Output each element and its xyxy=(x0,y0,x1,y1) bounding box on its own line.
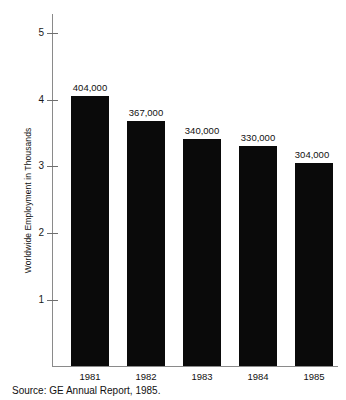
y-tick-mark-1 xyxy=(47,300,58,301)
plot-area: 5 4 3 2 1 Worldwide Employment in Thousa… xyxy=(0,0,346,400)
bar-1981 xyxy=(71,96,109,366)
bar-chart-figure: 5 4 3 2 1 Worldwide Employment in Thousa… xyxy=(0,0,346,400)
bar-value-label-1985: 304,000 xyxy=(277,150,346,160)
y-tick-mark-4 xyxy=(47,100,58,101)
bar-value-label-1982: 367,000 xyxy=(111,108,181,118)
x-category-label-1981: 1981 xyxy=(60,371,120,382)
y-tick-mark-2 xyxy=(47,233,58,234)
x-axis-baseline xyxy=(52,366,338,367)
x-category-label-1983: 1983 xyxy=(172,371,232,382)
y-tick-mark-3 xyxy=(47,166,58,167)
y-axis-line xyxy=(52,14,53,366)
x-category-label-1982: 1982 xyxy=(116,371,176,382)
bar-1982 xyxy=(127,121,165,366)
bar-1985 xyxy=(295,163,333,366)
bar-value-label-1981: 404,000 xyxy=(55,83,125,93)
bar-1984 xyxy=(239,146,277,366)
source-note: Source: GE Annual Report, 1985. xyxy=(12,385,160,396)
y-tick-label-4: 4 xyxy=(18,95,44,105)
bar-1983 xyxy=(183,139,221,366)
y-tick-label-1: 1 xyxy=(18,295,44,305)
y-tick-label-5: 5 xyxy=(18,28,44,38)
bar-value-label-1984: 330,000 xyxy=(223,133,293,143)
y-tick-mark-5 xyxy=(47,33,58,34)
x-category-label-1984: 1984 xyxy=(228,371,288,382)
x-category-label-1985: 1985 xyxy=(284,371,344,382)
y-axis-title: Worldwide Employment in Thousands xyxy=(24,111,33,291)
